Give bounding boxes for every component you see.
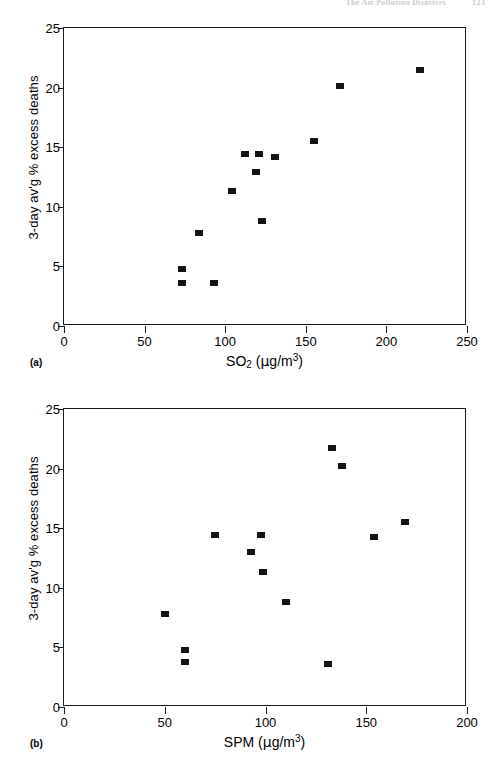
y-tick-label: 0 — [53, 320, 60, 333]
data-point-marker — [210, 280, 218, 286]
y-tick-label: 10 — [46, 200, 60, 213]
data-point-marker — [336, 83, 344, 89]
data-point-marker — [328, 445, 336, 451]
data-point-marker — [258, 218, 266, 224]
x-tick-label: 0 — [60, 335, 67, 348]
x-tick-mark — [145, 326, 146, 333]
data-point-marker — [228, 188, 236, 194]
data-point-marker — [416, 67, 424, 73]
panel-b-x-unit-open: ( — [254, 734, 263, 750]
x-tick-mark — [366, 707, 367, 714]
data-point-marker — [211, 532, 219, 538]
y-tick-label: 15 — [46, 522, 60, 535]
x-tick-label: 200 — [456, 716, 478, 729]
panel-b-x-axis-title-main: SPM — [224, 734, 254, 750]
data-point-marker — [161, 611, 169, 617]
data-point-marker — [401, 519, 409, 525]
y-tick-label: 25 — [46, 22, 60, 35]
data-point-marker — [310, 138, 318, 144]
panel-a-x-unit-mu: µ — [260, 353, 269, 369]
panel-a-y-axis-title: 3-day av'g % excess deaths — [26, 63, 41, 253]
data-point-marker — [282, 599, 290, 605]
y-tick-label: 25 — [46, 403, 60, 416]
x-tick-label: 50 — [137, 335, 151, 348]
x-tick-mark — [306, 326, 307, 333]
y-tick-label: 5 — [53, 641, 60, 654]
data-point-marker — [247, 549, 255, 555]
panel-a-plot-area: 0510152025050100150200250 — [63, 27, 466, 325]
panel-b-x-unit-close: ) — [301, 734, 306, 750]
panel-a-letter: (a) — [30, 357, 42, 368]
x-tick-mark — [225, 326, 226, 333]
y-tick-label: 10 — [46, 581, 60, 594]
data-point-marker — [195, 230, 203, 236]
data-point-marker — [271, 154, 279, 160]
data-point-marker — [178, 280, 186, 286]
panel-a-x-axis-title-main: SO — [226, 353, 246, 369]
panel-b-x-axis-title: SPM (µg/m3) — [63, 733, 466, 751]
x-tick-label: 150 — [295, 335, 317, 348]
data-point-marker — [178, 266, 186, 272]
panel-a-x-unit-gm: g/m — [269, 353, 292, 369]
panel-a-x-axis-title: SO2 (µg/m3) — [63, 352, 466, 370]
y-tick-label: 15 — [46, 141, 60, 154]
data-point-marker — [257, 532, 265, 538]
y-tick-label: 20 — [46, 81, 60, 94]
x-tick-label: 0 — [60, 716, 67, 729]
x-tick-label: 50 — [158, 716, 172, 729]
panel-b-x-unit-mu: µ — [263, 734, 272, 750]
x-tick-label: 100 — [214, 335, 236, 348]
data-point-marker — [241, 151, 249, 157]
x-tick-mark — [467, 707, 468, 714]
y-tick-label: 20 — [46, 462, 60, 475]
data-point-marker — [181, 659, 189, 665]
x-tick-label: 250 — [456, 335, 478, 348]
x-tick-mark — [64, 707, 65, 714]
x-tick-mark — [266, 707, 267, 714]
figure-panel-a: 3-day av'g % excess deaths 0510152025050… — [0, 0, 491, 390]
y-tick-label: 0 — [53, 701, 60, 714]
panel-b-plot-area: 0510152025050100150200 — [63, 408, 466, 706]
x-tick-mark — [386, 326, 387, 333]
data-point-marker — [255, 151, 263, 157]
x-tick-label: 200 — [376, 335, 398, 348]
panel-b-letter: (b) — [30, 738, 43, 749]
panel-a-x-unit-close: ) — [298, 353, 303, 369]
x-tick-mark — [165, 707, 166, 714]
x-tick-mark — [467, 326, 468, 333]
data-point-marker — [324, 661, 332, 667]
data-point-marker — [252, 169, 260, 175]
panel-b-x-unit-gm: g/m — [272, 734, 295, 750]
data-point-marker — [370, 534, 378, 540]
figure-panel-b: 3-day av'g % excess deaths 0510152025050… — [0, 381, 491, 761]
y-tick-label: 5 — [53, 260, 60, 273]
data-point-marker — [338, 463, 346, 469]
x-tick-label: 150 — [355, 716, 377, 729]
x-tick-mark — [64, 326, 65, 333]
panel-b-y-axis-title: 3-day av'g % excess deaths — [26, 444, 41, 634]
data-point-marker — [181, 647, 189, 653]
data-point-marker — [259, 569, 267, 575]
x-tick-label: 100 — [255, 716, 277, 729]
